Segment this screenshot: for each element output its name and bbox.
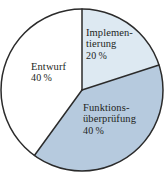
pie-label-implementierung-value: 20 % [86, 50, 133, 61]
pie-label-entwurf: Entwurf 40 % [31, 61, 66, 84]
pie-label-entwurf-value: 40 % [31, 72, 66, 83]
pie-label-entwurf-name: Entwurf [31, 61, 66, 72]
pie-label-implementierung-name-line1: Implemen- [86, 27, 133, 38]
pie-label-funktionsueberpruefung-value: 40 % [83, 125, 136, 136]
pie-label-implementierung-name-line2: tierung [86, 38, 133, 49]
pie-chart-svg [0, 0, 168, 178]
pie-label-funktionsueberpruefung-name-line1: Funktions- [83, 102, 136, 113]
pie-label-funktionsueberpruefung-name-line2: überprüfung [83, 113, 136, 124]
pie-label-funktionsueberpruefung: Funktions- überprüfung 40 % [83, 102, 136, 136]
pie-chart-figure: Entwurf 40 % Implemen- tierung 20 % Funk… [0, 0, 168, 178]
pie-label-implementierung: Implemen- tierung 20 % [86, 27, 133, 61]
